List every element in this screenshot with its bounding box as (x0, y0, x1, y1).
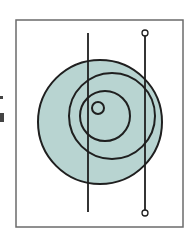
right-line-bottom-marker-icon (142, 210, 148, 216)
disc (38, 60, 162, 184)
right-line-top-marker-icon (142, 30, 148, 36)
diagram-canvas (0, 0, 191, 233)
